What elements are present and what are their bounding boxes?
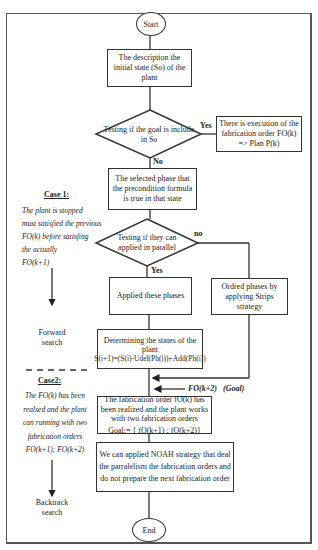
case2-line: fabrication orders — [14, 430, 96, 444]
fabrication-realized-box: The fabrication order fO(k) has been rea… — [97, 396, 212, 434]
case1-line: The plant is stopped — [22, 204, 102, 217]
case2-line: The FO(k) has been — [14, 389, 96, 403]
case2-line: can running with two — [14, 416, 96, 430]
execution-box: There is execution of the fabrication or… — [216, 116, 302, 152]
backtrack-label-line1: Backtrack — [22, 498, 82, 508]
determining-formula: S(i+1)=(S(i)-Udel(Ph(i))+Add(Ph(i)) — [94, 354, 205, 363]
goal-input-label: FO(k+2) (Goal) — [188, 384, 244, 393]
forward-label-line1: Forward — [22, 328, 82, 338]
end-terminal: End — [132, 518, 166, 542]
ordered-phases-box: Ordred phases by applying Strips strateg… — [211, 278, 288, 315]
goal-decision: Testing if the goal is include in So — [98, 125, 200, 145]
case1-description: The plant is stopped must satisfied the … — [22, 204, 102, 269]
parallel-decision-line2: applied in parallel — [103, 243, 191, 253]
case2-line: FO(k+1); FO(k+2) — [14, 443, 96, 457]
applied-phases-text: Applied these phases — [117, 291, 185, 301]
goal-decision-line1: Testing if the goal is include — [98, 125, 200, 135]
case1-line: FO(k) before satisfing — [22, 230, 102, 243]
yes-label-1: Yes — [200, 121, 212, 130]
case2-description: The FO(k) has been realsed and the plant… — [14, 389, 96, 457]
start-terminal: Start — [136, 12, 166, 36]
yes-label-2: Yes — [151, 266, 163, 275]
forward-search-label: Forward search — [22, 328, 82, 348]
selected-phase-text: The selected phase that the precondition… — [111, 174, 194, 204]
case1-title: Case 1: — [44, 190, 69, 199]
determining-line2: plant — [142, 345, 158, 354]
backtrack-label-line2: search — [22, 508, 82, 518]
noah-strategy-text: We can applied NOAH strategy that deal t… — [99, 449, 231, 485]
no-label-1: No — [153, 157, 163, 166]
case2-title: Case2: — [38, 376, 61, 385]
no-label-2: no — [194, 229, 202, 238]
start-label: Start — [143, 20, 158, 29]
parallel-decision-line1: Testing if they can — [103, 233, 191, 243]
goal-set-text: Goal:= { fO(k+1) ; fO(k+2)} — [108, 426, 201, 436]
end-label: End — [143, 526, 156, 535]
case1-line: must satisfied the previous — [22, 217, 102, 230]
case2-line: realsed and the plant — [14, 403, 96, 417]
goal-decision-line2: in So — [98, 135, 200, 145]
noah-strategy-box: We can applied NOAH strategy that deal t… — [96, 442, 234, 492]
execution-text: There is execution of the fabrication or… — [219, 119, 299, 149]
backtrack-search-label: Backtrack search — [22, 498, 82, 518]
case1-line: FO(k+1) — [22, 256, 102, 269]
determining-box: Determining the states of the plant S(i+… — [97, 329, 203, 369]
initial-state-text: The description the initial state (So) o… — [110, 53, 189, 83]
selected-phase-box: The selected phase that the precondition… — [108, 168, 197, 210]
case1-line: the actually — [22, 243, 102, 256]
determining-line1: Determining the states of the — [104, 336, 196, 345]
applied-phases-box: Applied these phases — [109, 277, 192, 315]
forward-label-line2: search — [22, 338, 82, 348]
initial-state-box: The description the initial state (So) o… — [107, 49, 192, 87]
ordered-phases-text: Ordred phases by applying Strips strateg… — [214, 282, 285, 312]
fabrication-realized-text: The fabrication order fO(k) has been rea… — [100, 395, 209, 424]
parallel-decision: Testing if they can applied in parallel — [103, 233, 191, 253]
